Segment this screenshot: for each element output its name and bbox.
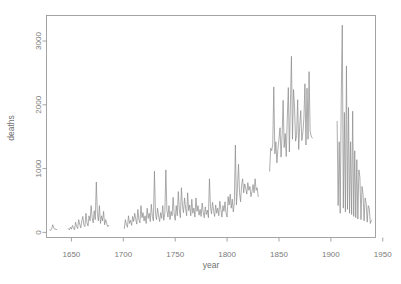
x-tick-label: 1800: [218, 250, 236, 259]
x-tick-label: 1900: [322, 250, 340, 259]
x-tick-label: 1700: [114, 250, 132, 259]
x-tick-label: 1750: [166, 250, 184, 259]
y-tick-label: 0: [34, 230, 43, 235]
y-tick-label: 3000: [34, 32, 43, 50]
x-axis-label: year: [203, 260, 220, 270]
x-tick-label: 1950: [374, 250, 392, 259]
y-tick-label: 1000: [34, 159, 43, 177]
x-tick-label: 1650: [63, 250, 81, 259]
y-axis-label: deaths: [6, 115, 16, 141]
x-tick-label: 1850: [270, 250, 288, 259]
deaths-by-year-line-chart: 0100020003000 16501700175018001850190019…: [0, 0, 401, 284]
y-tick-label: 2000: [34, 95, 43, 113]
chart-plot-area: 0100020003000 16501700175018001850190019…: [0, 0, 401, 284]
